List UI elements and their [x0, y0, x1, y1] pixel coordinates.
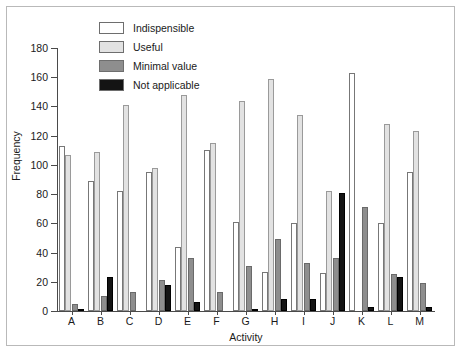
legend-item-3: Not applicable	[99, 75, 249, 94]
y-axis-title: Frequency	[10, 96, 22, 216]
bar-L-2	[391, 274, 397, 311]
bar-C-0	[117, 191, 123, 311]
bar-F-2	[217, 292, 223, 311]
y-tick-label: 20	[4, 277, 48, 288]
bar-J-3	[339, 193, 345, 311]
bar-D-2	[159, 280, 165, 311]
bar-L-0	[378, 223, 384, 311]
chart-figure: 020406080100120140160180 ABCDEFGHIJKLM F…	[0, 0, 463, 359]
bar-group	[347, 48, 376, 311]
bar-B-0	[88, 181, 94, 311]
legend-label: Not applicable	[133, 79, 200, 91]
y-tick-label-wrap: 40	[0, 248, 48, 258]
legend-label: Useful	[133, 41, 163, 53]
bar-I-0	[291, 223, 297, 311]
bar-M-0	[407, 172, 413, 311]
legend-swatch-icon	[99, 41, 124, 53]
legend-item-2: Minimal value	[99, 56, 249, 75]
legend-swatch-icon	[99, 60, 124, 72]
y-tick-mark	[51, 311, 57, 312]
y-tick-label: 160	[4, 72, 48, 83]
x-tick-label-G: G	[233, 315, 259, 327]
x-tick-label-L: L	[378, 315, 404, 327]
y-tick-label: 180	[4, 43, 48, 54]
bar-A-2	[72, 304, 78, 311]
bar-D-1	[152, 168, 158, 311]
bar-A-3	[78, 309, 84, 311]
bar-D-0	[146, 172, 152, 311]
x-tick-label-A: A	[59, 315, 85, 327]
x-tick-label-K: K	[349, 315, 375, 327]
y-tick-label-wrap: 80	[0, 189, 48, 199]
bar-H-2	[275, 239, 281, 311]
bar-G-3	[252, 309, 258, 311]
bar-G-0	[233, 222, 239, 311]
x-tick-label-F: F	[204, 315, 230, 327]
x-tick-label-B: B	[88, 315, 114, 327]
bar-C-1	[123, 105, 129, 311]
bar-J-0	[320, 273, 326, 311]
bar-K-0	[349, 73, 355, 311]
bar-M-2	[420, 283, 426, 311]
bar-H-0	[262, 272, 268, 311]
bar-E-3	[194, 302, 200, 311]
bar-group	[289, 48, 318, 311]
y-tick-label-wrap: 100	[0, 160, 48, 170]
bar-J-1	[326, 191, 332, 311]
y-tick-label: 60	[4, 218, 48, 229]
y-tick-label: 0	[4, 306, 48, 317]
bar-A-0	[59, 146, 65, 311]
legend-swatch-icon	[99, 79, 124, 91]
x-tick-label-C: C	[117, 315, 143, 327]
y-tick-label-wrap: 160	[0, 72, 48, 82]
bar-F-0	[204, 150, 210, 311]
bar-G-1	[239, 101, 245, 311]
bar-I-3	[310, 299, 316, 311]
bar-J-2	[333, 258, 339, 311]
bar-group	[318, 48, 347, 311]
bar-group	[405, 48, 434, 311]
bar-group	[260, 48, 289, 311]
y-tick-label-wrap: 0	[0, 306, 48, 316]
bar-F-1	[210, 143, 216, 311]
bar-E-0	[175, 247, 181, 311]
y-tick-label-wrap: 20	[0, 277, 48, 287]
bar-A-1	[65, 155, 71, 311]
bar-G-2	[246, 266, 252, 311]
x-tick-label-D: D	[146, 315, 172, 327]
x-tick-label-M: M	[407, 315, 433, 327]
bar-I-2	[304, 263, 310, 311]
bar-L-1	[384, 124, 390, 311]
bar-group	[57, 48, 86, 311]
legend-item-1: Useful	[99, 37, 249, 56]
bar-B-1	[94, 152, 100, 311]
y-tick-label-wrap: 180	[0, 43, 48, 53]
y-tick-label-wrap: 140	[0, 101, 48, 111]
bar-H-1	[268, 79, 274, 311]
legend-swatch-icon	[99, 22, 124, 34]
legend-label: Minimal value	[133, 60, 197, 72]
bar-H-3	[281, 299, 287, 311]
bar-C-2	[130, 292, 136, 311]
bar-B-3	[107, 277, 113, 311]
chart-legend: IndispensibleUsefulMinimal valueNot appl…	[99, 18, 249, 94]
bar-K-3	[368, 307, 374, 311]
bar-M-3	[426, 307, 432, 311]
x-tick-label-J: J	[320, 315, 346, 327]
x-tick-label-E: E	[175, 315, 201, 327]
bar-B-2	[101, 296, 107, 311]
y-tick-label-wrap: 60	[0, 218, 48, 228]
bar-L-3	[397, 277, 403, 311]
bar-D-3	[165, 285, 171, 311]
x-tick-label-I: I	[291, 315, 317, 327]
bar-I-1	[297, 115, 303, 311]
bar-group	[376, 48, 405, 311]
x-axis-title: Activity	[57, 331, 435, 343]
x-tick-label-H: H	[262, 315, 288, 327]
bar-M-1	[413, 131, 419, 311]
y-tick-label-wrap: 120	[0, 131, 48, 141]
bar-E-2	[188, 258, 194, 311]
legend-item-0: Indispensible	[99, 18, 249, 37]
y-tick-label: 40	[4, 248, 48, 259]
bar-K-2	[362, 207, 368, 311]
